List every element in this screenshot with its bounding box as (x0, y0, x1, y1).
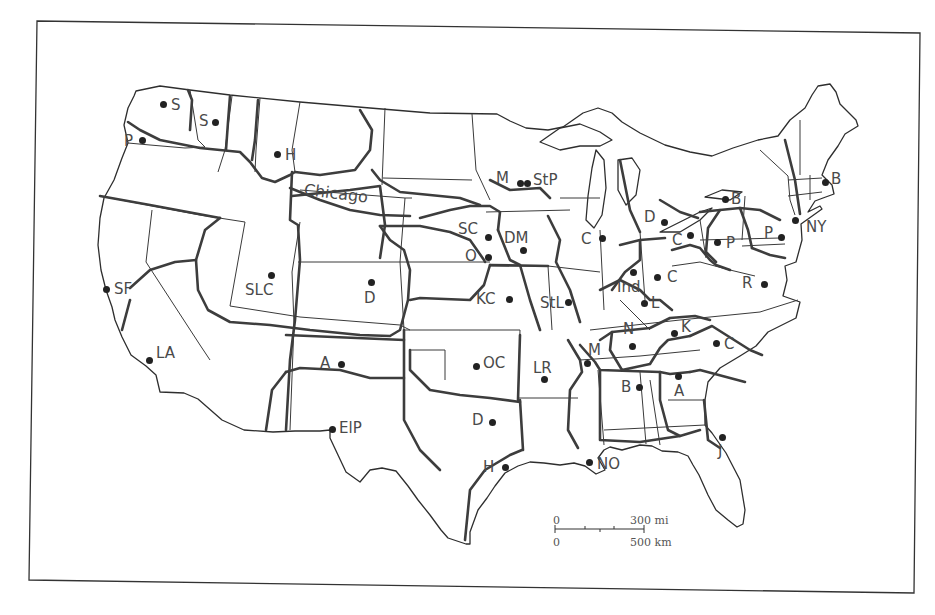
city-label: P (124, 134, 133, 149)
city-dot (506, 296, 513, 303)
city-label: P (726, 236, 735, 251)
city-dot (629, 343, 636, 350)
city-dot (329, 426, 336, 433)
city-label: DM (504, 231, 529, 246)
city-dot (713, 340, 720, 347)
city-label: D (472, 413, 484, 428)
city-label: OC (483, 356, 505, 371)
city-dot (517, 180, 524, 187)
city-label: D (364, 291, 376, 306)
city-dot (520, 247, 527, 254)
city-dot (139, 137, 146, 144)
scale-bottom-zero: 0 (553, 537, 560, 548)
city-label: ElP (339, 421, 362, 436)
city-label: C (672, 233, 682, 248)
city-dot (599, 235, 606, 242)
city-dot (719, 434, 726, 441)
city-label: B (621, 380, 631, 395)
city-dot (212, 119, 219, 126)
city-dot (338, 361, 345, 368)
city-label: SC (458, 222, 478, 237)
city-dot (661, 219, 668, 226)
lake-michigan (586, 150, 606, 228)
scale-top-value: 300 mi (630, 515, 668, 526)
city-dot (489, 419, 496, 426)
city-label: O (465, 249, 477, 264)
city-dot (778, 234, 785, 241)
city-label: N (623, 322, 634, 337)
state-boundaries (100, 90, 822, 445)
city-dot (641, 300, 648, 307)
city-label: NO (597, 457, 620, 472)
city-dot (146, 357, 153, 364)
city-dot (630, 269, 637, 276)
city-dot (722, 196, 729, 203)
city-dot (502, 464, 509, 471)
city-label: StP (533, 173, 557, 188)
city-dot (675, 373, 682, 380)
trade-region-boundaries (100, 90, 800, 540)
city-label: R (742, 276, 752, 291)
city-dot (671, 330, 678, 337)
city-label: NY (806, 220, 826, 235)
city-label: M (588, 343, 601, 358)
city-dot (485, 234, 492, 241)
city-dot (584, 360, 591, 367)
city-label: H (483, 460, 494, 475)
city-label: L (651, 296, 659, 311)
city-label: SLC (245, 283, 273, 298)
scale-top-zero: 0 (553, 515, 560, 526)
city-label: SF (114, 282, 132, 297)
city-dot (761, 281, 768, 288)
city-label: C (724, 337, 734, 352)
city-dot (368, 279, 375, 286)
city-label: LA (156, 346, 175, 361)
city-label: D (644, 210, 656, 225)
scale-bottom-value: 500 km (630, 537, 672, 548)
us-trade-region-map: Chicago SSPHMStPBDBSCDMCCPPNYOSFSLCDKCSt… (0, 0, 935, 615)
map-graphic (0, 0, 935, 615)
city-label: S (199, 114, 209, 129)
city-dot (822, 179, 829, 186)
city-dot (792, 217, 799, 224)
city-dot (268, 272, 275, 279)
city-dot (714, 239, 721, 246)
city-label: B (731, 192, 741, 207)
city-dot (586, 459, 593, 466)
city-dot (654, 274, 661, 281)
city-label: S (171, 98, 181, 113)
city-label: P (764, 226, 773, 241)
city-label: B (831, 172, 841, 187)
city-label: KC (476, 292, 496, 307)
city-label: M (496, 171, 509, 186)
city-dot (565, 299, 572, 306)
city-label: Ind (617, 280, 640, 295)
city-label: J (718, 444, 722, 459)
city-label: A (320, 356, 330, 371)
city-dot (524, 180, 531, 187)
city-dot (103, 286, 110, 293)
city-dot (473, 363, 480, 370)
city-label: C (667, 270, 677, 285)
city-dot (274, 151, 281, 158)
city-label: C (581, 232, 591, 247)
city-label: LR (533, 361, 552, 376)
city-label: H (285, 148, 296, 163)
city-dot (687, 232, 694, 239)
city-label: StL (540, 296, 564, 311)
lake-superior (540, 124, 612, 150)
city-label: A (674, 384, 684, 399)
city-dot (636, 384, 643, 391)
city-dot (485, 254, 492, 261)
city-dot (160, 101, 167, 108)
city-label: K (681, 320, 691, 335)
